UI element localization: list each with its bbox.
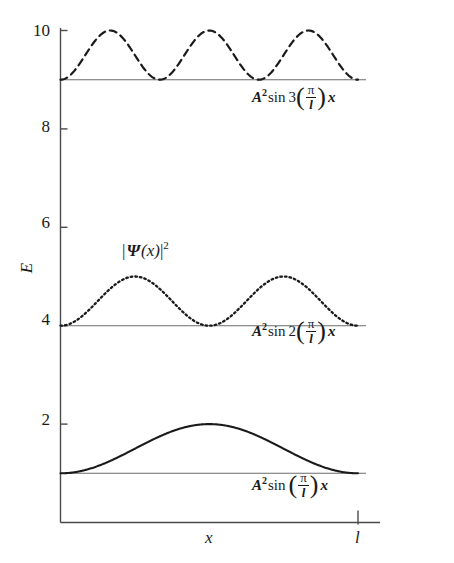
formula-n2-denominator: l [306, 331, 317, 346]
formula-n2-fraction: πl [306, 317, 317, 345]
formula-n2-numerator: π [306, 317, 317, 331]
formula-n1-fraction: πl [298, 471, 309, 499]
energy-level-baselines [61, 80, 367, 474]
formula-n1-function: sin [268, 477, 286, 493]
psi-symbol: Ψ [126, 241, 140, 260]
y-tick-label-10: 10 [10, 22, 50, 39]
formula-n3-amplitude: A [252, 89, 262, 105]
formula-n1-denominator: l [298, 485, 309, 500]
formula-n2: A2sin2(πl)x [252, 318, 335, 346]
formula-n1-amplitude: A [252, 477, 262, 493]
formula-n2-paren-close: ) [317, 320, 326, 341]
y-tick-label-2: 2 [10, 411, 50, 428]
formula-n1-paren-open: ( [289, 474, 298, 495]
y-tick-label-6: 6 [10, 214, 50, 231]
formula-n3-coefficient: 3 [289, 89, 297, 105]
formula-n1-numerator: π [298, 471, 309, 485]
y-tick-marks [61, 31, 68, 425]
psi-squared-annotation: |Ψ(x)|2 [122, 240, 169, 259]
formula-n3-paren-open: ( [296, 86, 305, 107]
formula-n3-variable: x [328, 89, 336, 105]
psi-exponent: 2 [163, 239, 169, 251]
curve-n3 [61, 31, 359, 80]
formula-n2-exponent: 2 [262, 321, 267, 332]
formula-n2-paren-open: ( [296, 320, 305, 341]
x-axis-title: x [205, 528, 213, 548]
formula-n3-function: sin [268, 89, 286, 105]
formula-n1: A2sin(πl)x [252, 472, 328, 500]
formula-n1-exponent: 2 [262, 475, 267, 486]
y-tick-label-4: 4 [10, 311, 50, 328]
formula-n2-function: sin [268, 323, 286, 339]
x-tick-label-l: l [355, 528, 360, 548]
formula-n3-fraction: πl [306, 83, 317, 111]
formula-n2-amplitude: A [252, 323, 262, 339]
y-axis-title: E [17, 258, 37, 278]
formula-n2-coefficient: 2 [289, 323, 297, 339]
plot-canvas [0, 0, 454, 563]
particle-in-a-box-figure: 10 8 6 4 2 E x l |Ψ(x)|2 A2sin3(πl)x A2s… [0, 0, 454, 563]
formula-n3-denominator: l [306, 97, 317, 112]
formula-n1-paren-close: ) [310, 474, 319, 495]
formula-n3-numerator: π [306, 83, 317, 97]
formula-n3-paren-close: ) [317, 86, 326, 107]
psi-argument: (x) [141, 241, 160, 260]
formula-n3: A2sin3(πl)x [252, 84, 335, 112]
curve-n1 [61, 424, 359, 473]
formula-n3-exponent: 2 [262, 87, 267, 98]
formula-n1-variable: x [320, 477, 328, 493]
y-tick-label-8: 8 [10, 118, 50, 135]
formula-n2-variable: x [328, 323, 336, 339]
psi-left-bar: | [122, 241, 125, 260]
